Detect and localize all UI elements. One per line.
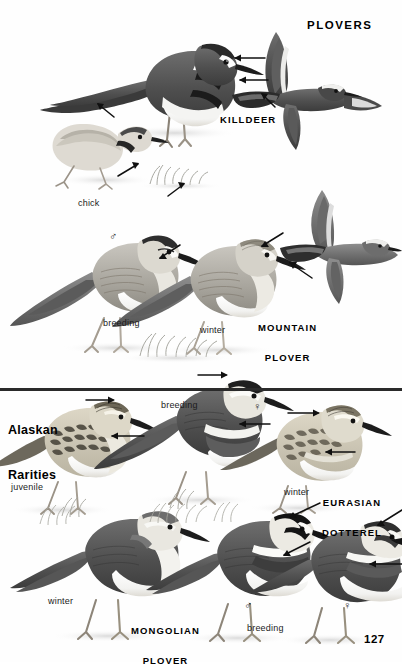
group-label-alaskan-rarities: Alaskan Rarities [8, 392, 58, 514]
species-label-line-1: MOUNTAIN [258, 323, 317, 333]
section-divider [0, 388, 402, 391]
symbol-male-mountain-plover: ♂ [109, 231, 117, 243]
caption-breeding-mongolian-plover: breeding [247, 624, 284, 634]
species-label-mountain-plover: MOUNTAIN PLOVER [258, 302, 317, 384]
killdeer-flight-illustration [232, 32, 382, 150]
species-label-line-1: MONGOLIAN [131, 626, 200, 636]
species-label-mongolian-plover: MONGOLIAN PLOVER [131, 605, 200, 668]
species-label-line-2: DOTTEREL [322, 528, 382, 538]
species-label-line-2: PLOVER [258, 353, 317, 363]
symbol-male-mongolian-plover: ♂ [244, 600, 252, 612]
mountain-plover-flight-illustration [280, 190, 402, 304]
group-label-line-1: Alaskan [8, 423, 58, 438]
species-label-line-2: PLOVER [131, 656, 200, 666]
species-label-killdeer: KILLDEER [220, 115, 276, 125]
caption-chick: chick [78, 199, 100, 209]
species-label-eurasian-dotterel: EURASIAN DOTTEREL [322, 477, 382, 559]
caption-breeding-dotterel: breeding [161, 401, 198, 411]
plate-title: PLOVERS [307, 19, 372, 31]
caption-breeding-mountain-plover: breeding [103, 319, 140, 329]
symbol-female-dotterel: ♀ [253, 401, 261, 413]
species-label-line-1: EURASIAN [322, 498, 382, 508]
symbol-female-mongolian-plover: ♀ [343, 600, 351, 612]
caption-winter-mountain-plover: winter [200, 326, 225, 336]
caption-winter-mongolian-plover: winter [48, 597, 73, 607]
page-number: 127 [364, 633, 385, 645]
caption-juvenile-dotterel: juvenile [11, 483, 43, 493]
caption-winter-dotterel: winter [284, 488, 309, 498]
